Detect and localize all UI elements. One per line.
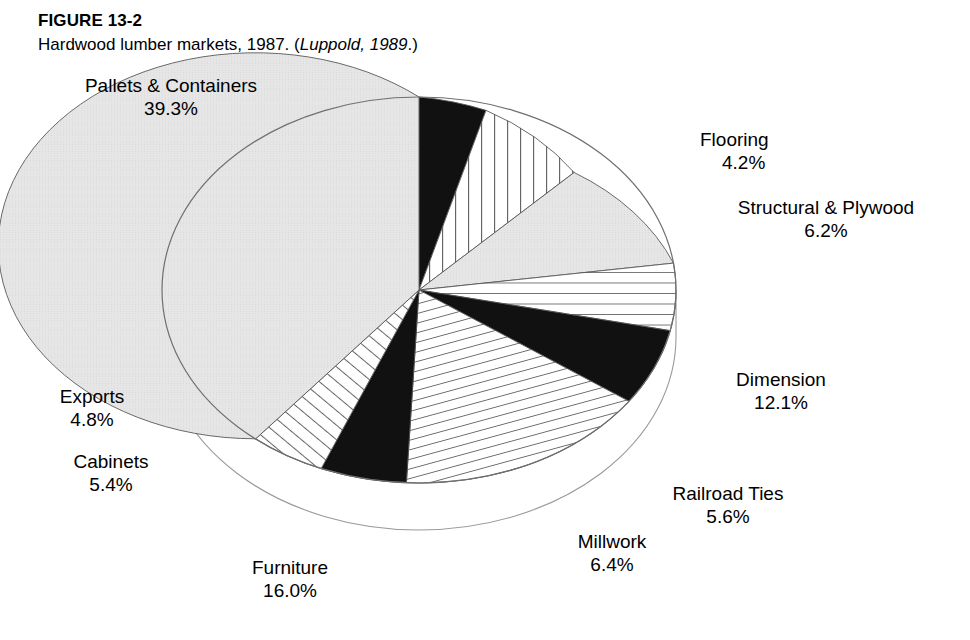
- slice-label-millwork: Millwork 6.4%: [549, 530, 675, 576]
- slice-label-exports: Exports 4.8%: [30, 385, 154, 431]
- slice-label-structural-plywood: Structural & Plywood 6.2%: [690, 196, 962, 242]
- figure-root: FIGURE 13-2 Hardwood lumber markets, 198…: [0, 0, 970, 640]
- slice-label-name: Cabinets: [42, 450, 180, 473]
- slice-label-name: Exports: [30, 385, 154, 408]
- slice-label-name: Millwork: [549, 530, 675, 553]
- slice-label-percent: 6.4%: [549, 553, 675, 576]
- slice-label-flooring: Flooring 4.2%: [700, 128, 830, 174]
- slice-label-name: Pallets & Containers: [40, 74, 302, 97]
- pie-chart: Pallets & Containers 39.3% Flooring 4.2%…: [0, 0, 970, 640]
- slice-label-furniture: Furniture 16.0%: [222, 556, 358, 602]
- slice-label-percent: 4.8%: [30, 408, 154, 431]
- slice-label-name: Flooring: [700, 128, 830, 151]
- slice-label-railroad-ties: Railroad Ties 5.6%: [640, 482, 816, 528]
- slice-label-cabinets: Cabinets 5.4%: [42, 450, 180, 496]
- slice-label-percent: 6.2%: [690, 219, 962, 242]
- slice-label-percent: 5.6%: [640, 505, 816, 528]
- slice-label-name: Dimension: [700, 368, 862, 391]
- slice-label-percent: 39.3%: [40, 97, 302, 120]
- slice-label-percent: 16.0%: [222, 579, 358, 602]
- slice-label-name: Railroad Ties: [640, 482, 816, 505]
- slice-label-dimension: Dimension 12.1%: [700, 368, 862, 414]
- slice-label-name: Furniture: [222, 556, 358, 579]
- slice-label-name: Structural & Plywood: [690, 196, 962, 219]
- slice-label-percent: 4.2%: [700, 151, 830, 174]
- slice-label-pallets-containers: Pallets & Containers 39.3%: [40, 74, 302, 120]
- slice-label-percent: 12.1%: [700, 391, 862, 414]
- slice-label-percent: 5.4%: [42, 473, 180, 496]
